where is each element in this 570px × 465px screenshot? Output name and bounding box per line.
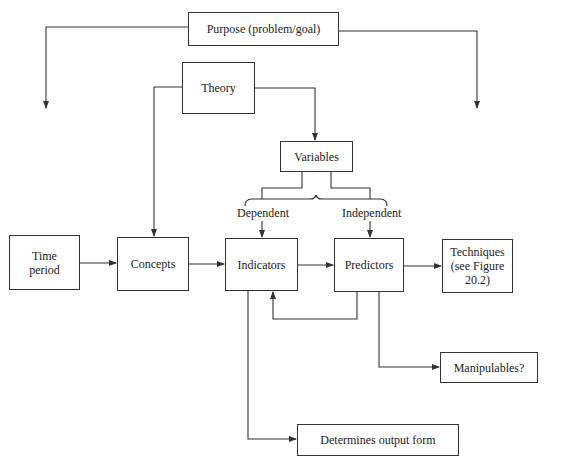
time-period-box: Time period: [9, 235, 80, 290]
independent-label: Independent: [342, 206, 401, 221]
theory-box: Theory: [182, 62, 255, 114]
theory-label: Theory: [201, 81, 236, 95]
indicators-label: Indicators: [238, 258, 286, 272]
predictors-box: Predictors: [334, 238, 404, 292]
purpose-label: Purpose (problem/goal): [207, 22, 321, 36]
dependent-label: Dependent: [237, 206, 289, 221]
manipulables-box: Manipulables?: [440, 352, 538, 383]
purpose-box: Purpose (problem/goal): [188, 12, 339, 46]
concepts-label: Concepts: [131, 257, 176, 271]
output-form-box: Determines output form: [297, 424, 459, 456]
connector-lines: [0, 0, 570, 465]
manipulables-label: Manipulables?: [454, 361, 525, 375]
variables-label: Variables: [294, 150, 339, 164]
variables-box: Variables: [280, 141, 353, 172]
predictors-label: Predictors: [345, 258, 394, 272]
concepts-box: Concepts: [117, 237, 189, 291]
indicators-box: Indicators: [225, 238, 298, 291]
techniques-box: Techniques (see Figure 20.2): [442, 239, 513, 293]
time-period-label: Time period: [29, 249, 60, 277]
output-form-label: Determines output form: [320, 433, 435, 447]
techniques-label: Techniques (see Figure 20.2): [450, 245, 504, 287]
